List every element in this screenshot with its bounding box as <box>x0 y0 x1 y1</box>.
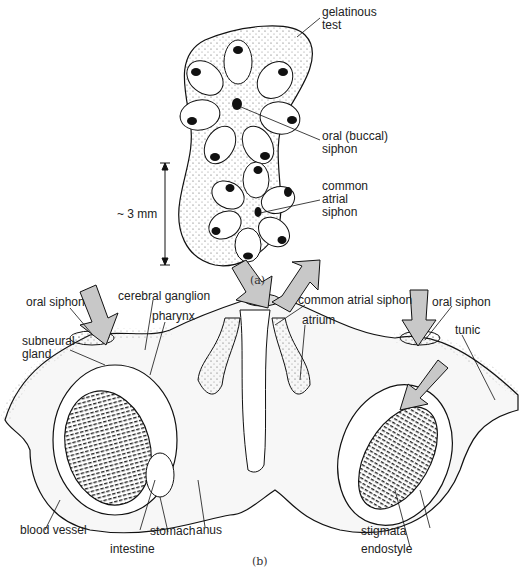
label-intestine: intestine <box>110 543 155 556</box>
label-stomach: stomach <box>150 525 195 538</box>
label-stigmata: stigmata <box>361 525 406 538</box>
label-anus: anus <box>196 524 222 537</box>
label-blood-vessel: blood vessel <box>20 524 87 537</box>
label-oral-siphon-right: oral siphon <box>432 296 491 309</box>
label-oral-siphon-left: oral siphon <box>26 296 85 309</box>
label-cerebral-ganglion: cerebral ganglion <box>118 290 210 303</box>
label-atrium: atrium <box>302 314 335 327</box>
colony-panel-a <box>160 18 320 266</box>
caption-a: (a) <box>250 274 265 287</box>
label-gelatinous-test: gelatinous test <box>322 6 377 32</box>
label-pharynx: pharynx <box>152 310 195 323</box>
label-common-atrial-siphon-a: common atrial siphon <box>322 180 368 219</box>
caption-b: (b) <box>252 555 268 568</box>
label-endostyle: endostyle <box>361 543 412 556</box>
scale-bar-label: ~ 3 mm <box>117 208 157 221</box>
label-subneural-gland: subneural gland <box>22 335 75 361</box>
label-common-atrial-siphon-b: common atrial siphon <box>298 294 412 307</box>
label-oral-buccal-siphon: oral (buccal) siphon <box>322 130 388 156</box>
label-tunic: tunic <box>455 324 480 337</box>
ascidian-diagram <box>0 0 523 575</box>
